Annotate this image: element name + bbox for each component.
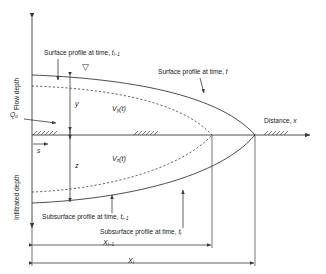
soil-coordinate-label: s	[37, 148, 40, 155]
surface-volume-argument: (t)	[119, 104, 126, 113]
surface-current-var: t	[226, 68, 228, 75]
subsurface-volume-argument: (t)	[119, 154, 126, 163]
irrigation-advance-diagram: ▽ Flow depth Infiltrated depth Qo s Dist…	[0, 0, 326, 274]
flow-depth-dimension-label: y	[75, 100, 79, 107]
profile-curves-current-time	[32, 75, 255, 203]
subsurface-volume-label: Vz(t)	[112, 155, 126, 163]
subsurface-profile-previous-annotation: Subsurface profile at time, ti−1	[42, 214, 129, 221]
advance-previous-subscript: i−1	[108, 242, 114, 247]
inflow-subscript: o	[15, 114, 18, 119]
subsurface-profile-current-annotation: Subsurface profile at time, ti	[100, 229, 181, 236]
surface-previous-sub: i−1	[114, 52, 120, 57]
advance-current-subscript: i	[133, 260, 134, 265]
profile-curves-previous-time	[32, 86, 212, 192]
surface-previous-text: Surface profile at time,	[44, 49, 112, 56]
x-axis-label: Distance, x	[264, 118, 297, 125]
surface-volume-label: Vy(t)	[112, 105, 126, 113]
advance-dimension-bars	[33, 245, 254, 263]
subsurface-current-text: Subsurface profile at time,	[100, 228, 178, 235]
advance-distance-previous-label: Xi−1	[103, 239, 114, 247]
surface-profile-previous-annotation: Surface profile at time, ti−1	[44, 50, 120, 57]
subsurface-current-sub: i	[180, 231, 181, 236]
infiltrated-depth-dimension-label: z	[75, 162, 79, 169]
x-axis-label-text: Distance,	[264, 117, 293, 124]
subsurface-previous-text: Subsurface profile at time,	[42, 213, 120, 220]
inflow-discharge-label: Qo	[10, 112, 18, 119]
surface-current-text: Surface profile at time,	[158, 68, 226, 75]
y-axis-flow-depth-label: Flow depth	[14, 78, 21, 110]
surface-profile-current-annotation: Surface profile at time, t	[158, 69, 228, 76]
inflow-arrow	[24, 119, 56, 123]
subsurface-previous-sub: i−1	[122, 216, 128, 221]
water-surface-triangle-icon: ▽	[82, 63, 89, 72]
x-axis-label-var: x	[293, 117, 296, 124]
y-axis-infiltrated-depth-label: Infiltrated depth	[14, 175, 21, 220]
ground-hatching	[33, 131, 288, 135]
advance-distance-current-label: Xi	[128, 257, 134, 265]
